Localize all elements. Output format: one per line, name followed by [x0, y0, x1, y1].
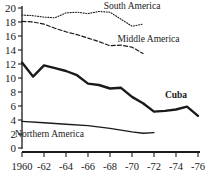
series-label-northern-america: Northern America: [15, 129, 85, 139]
x-tick-label: -64: [59, 161, 74, 172]
chart-container: 02468101214161820 1960-62-64-66-68-70-72…: [0, 0, 217, 178]
series-label-middle-america: Middle America: [118, 34, 181, 44]
line-chart-figure: 02468101214161820 1960-62-64-66-68-70-72…: [0, 0, 217, 178]
data-series-group: [22, 12, 198, 134]
x-tick-label: -72: [147, 161, 161, 172]
y-tick-label: 14: [5, 44, 17, 56]
x-tick-label: -66: [81, 161, 95, 172]
series-line-south-america: [22, 12, 143, 27]
x-tick-label: -76: [191, 161, 205, 172]
x-tick-label: -74: [169, 161, 184, 172]
y-tick-label: 20: [5, 2, 17, 14]
x-tick-label: -62: [37, 161, 51, 172]
x-axis-tick-labels: 1960-62-64-66-68-70-72-74-76: [12, 161, 206, 172]
x-tick-label: -68: [103, 161, 117, 172]
x-tick-label: -70: [125, 161, 139, 172]
x-tick-label: 1960: [12, 161, 33, 172]
y-tick-label: 12: [5, 58, 16, 70]
y-tick-label: 4: [11, 114, 17, 126]
y-tick-label: 6: [11, 100, 17, 112]
y-tick-label: 8: [11, 86, 17, 98]
series-label-cuba: Cuba: [165, 90, 187, 100]
y-tick-label: 0: [11, 142, 17, 154]
y-tick-label: 16: [5, 30, 17, 42]
y-tick-label: 10: [5, 72, 17, 84]
series-label-south-america: South America: [104, 1, 162, 11]
y-tick-label: 18: [5, 16, 17, 28]
